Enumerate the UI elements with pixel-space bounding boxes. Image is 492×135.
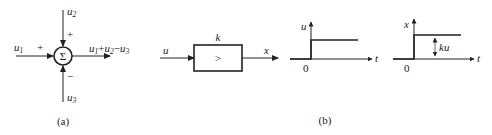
proportional-block-figure: u > k x u t 0 ku x t 0 (b) [160, 18, 481, 127]
output-step-plot: ku x t 0 [393, 18, 481, 74]
u1-sign: + [37, 41, 43, 53]
output-label: u1+u2−u3 [89, 42, 129, 56]
block-input-label: u [163, 44, 169, 56]
diagram-canvas: Σ u1 + u2 + u3 − u1+u2−u3 (a) u > k x u [0, 0, 492, 135]
u2-sign: + [67, 28, 73, 40]
u3-label: u3 [67, 91, 77, 105]
input-plot-origin: 0 [303, 62, 309, 74]
output-plot-x-label: x [403, 18, 409, 30]
block-output-label: x [263, 44, 269, 56]
caption-a: (a) [57, 115, 70, 128]
sigma-symbol: Σ [60, 50, 66, 62]
input-step-plot: u t 0 [290, 20, 379, 74]
output-step-signal [393, 35, 461, 59]
caption-b: (b) [319, 114, 332, 127]
block-symbol: > [215, 52, 221, 64]
u1-label: u1 [14, 41, 23, 55]
input-plot-t-label: t [375, 52, 379, 64]
output-plot-t-label: t [477, 52, 481, 64]
summing-junction-figure: Σ u1 + u2 + u3 − u1+u2−u3 (a) [14, 5, 129, 128]
u3-sign: − [67, 70, 73, 82]
input-step-signal [290, 40, 358, 59]
input-plot-u-label: u [301, 20, 307, 32]
ku-label: ku [439, 41, 450, 53]
u2-label: u2 [67, 5, 77, 19]
gain-label: k [216, 31, 222, 43]
output-plot-origin: 0 [404, 62, 410, 74]
